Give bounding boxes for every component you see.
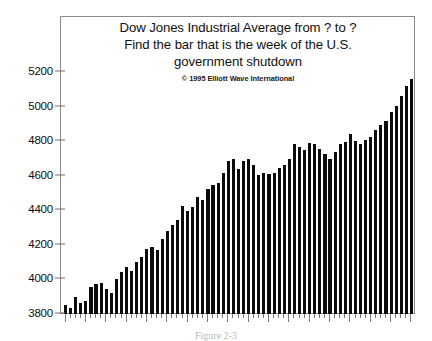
- bar: [176, 220, 179, 314]
- bar: [196, 197, 199, 314]
- x-axis-minor-tick: [319, 314, 320, 318]
- bar: [267, 174, 270, 314]
- bar: [278, 168, 281, 314]
- bar: [227, 161, 230, 314]
- bar: [303, 150, 306, 314]
- x-axis-minor-tick: [299, 314, 300, 318]
- bar-series: [61, 17, 416, 315]
- bar: [125, 267, 128, 314]
- x-axis-minor-tick: [115, 314, 116, 318]
- bar: [323, 154, 326, 314]
- bar: [74, 297, 77, 314]
- x-axis-minor-tick: [258, 314, 259, 318]
- bar: [262, 173, 265, 314]
- x-axis-minor-tick: [80, 314, 81, 318]
- y-axis-tick-label: 4000: [28, 272, 53, 284]
- x-axis-minor-tick: [360, 314, 361, 318]
- y-axis-tick-label: 5000: [28, 100, 53, 112]
- x-axis-minor-tick: [100, 314, 101, 318]
- bar: [94, 284, 97, 314]
- x-axis-minor-tick: [355, 314, 356, 318]
- bar: [105, 289, 108, 314]
- bar: [405, 86, 408, 314]
- x-axis-major-tick: [207, 314, 208, 322]
- x-axis-minor-tick: [95, 314, 96, 318]
- y-axis-tick-mark: [55, 209, 65, 210]
- bar: [84, 301, 87, 314]
- bar: [181, 206, 184, 314]
- x-axis-minor-tick: [400, 314, 401, 318]
- x-axis-major-tick: [166, 314, 167, 322]
- x-axis-minor-tick: [324, 314, 325, 318]
- x-axis-minor-tick: [380, 314, 381, 318]
- bar: [217, 183, 220, 314]
- bar: [211, 185, 214, 314]
- x-axis-minor-tick: [161, 314, 162, 318]
- bar: [364, 140, 367, 314]
- x-axis-minor-tick: [314, 314, 315, 318]
- plot-area: [60, 16, 415, 314]
- x-axis-minor-tick: [217, 314, 218, 318]
- x-axis-ticks: [60, 314, 415, 324]
- bar: [298, 147, 301, 314]
- x-axis-minor-tick: [110, 314, 111, 318]
- bar: [232, 159, 235, 314]
- bar: [273, 173, 276, 314]
- x-axis-minor-tick: [339, 314, 340, 318]
- x-axis-minor-tick: [334, 314, 335, 318]
- bar: [293, 144, 296, 314]
- bar: [222, 173, 225, 314]
- x-axis-minor-tick: [293, 314, 294, 318]
- bar: [206, 189, 209, 314]
- bar: [313, 144, 316, 314]
- x-axis-major-tick: [390, 314, 391, 322]
- x-axis-major-tick: [268, 314, 269, 322]
- x-axis-minor-tick: [90, 314, 91, 318]
- y-axis-tick-label: 4200: [28, 238, 53, 250]
- bar: [166, 231, 169, 314]
- x-axis-minor-tick: [141, 314, 142, 318]
- bar: [115, 279, 118, 314]
- y-axis-tick-mark: [55, 71, 65, 72]
- x-axis-minor-tick: [283, 314, 284, 318]
- x-axis-minor-tick: [263, 314, 264, 318]
- bar: [110, 293, 113, 314]
- x-axis-minor-tick: [182, 314, 183, 318]
- bar: [359, 144, 362, 314]
- bar: [400, 96, 403, 314]
- bar: [186, 211, 189, 314]
- bar: [130, 271, 133, 314]
- x-axis-major-tick: [370, 314, 371, 322]
- x-axis-minor-tick: [171, 314, 172, 318]
- x-axis-major-tick: [349, 314, 350, 322]
- bar: [135, 262, 138, 314]
- y-axis-tick-label: 3800: [28, 307, 53, 319]
- y-axis: 38004000420044004600480050005200: [0, 0, 58, 341]
- bar: [288, 159, 291, 314]
- x-axis-major-tick: [309, 314, 310, 322]
- x-axis-minor-tick: [243, 314, 244, 318]
- y-axis-tick-mark: [55, 243, 65, 244]
- x-axis-major-tick: [146, 314, 147, 322]
- x-axis-minor-tick: [385, 314, 386, 318]
- bar: [237, 169, 240, 314]
- bar: [247, 159, 250, 314]
- bar: [120, 272, 123, 314]
- x-axis-major-tick: [248, 314, 249, 322]
- x-axis-minor-tick: [405, 314, 406, 318]
- y-axis-tick-label: 4400: [28, 203, 53, 215]
- x-axis-minor-tick: [365, 314, 366, 318]
- x-axis-major-tick: [329, 314, 330, 322]
- x-axis-major-tick: [410, 314, 411, 322]
- bar: [328, 159, 331, 314]
- bar: [252, 165, 255, 314]
- bar: [384, 121, 387, 314]
- bar: [379, 125, 382, 314]
- bar: [318, 149, 321, 314]
- y-axis-tick-label: 4600: [28, 169, 53, 181]
- x-axis-minor-tick: [212, 314, 213, 318]
- x-axis-major-tick: [288, 314, 289, 322]
- x-axis-minor-tick: [344, 314, 345, 318]
- bar: [191, 207, 194, 314]
- x-axis-minor-tick: [176, 314, 177, 318]
